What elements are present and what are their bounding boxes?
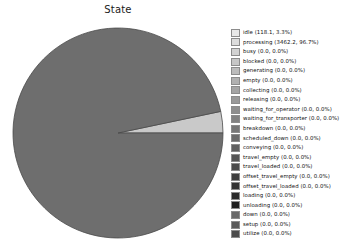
legend-item-label: generating (0.0, 0.0%)	[243, 66, 305, 76]
legend-swatch-icon	[231, 115, 240, 123]
legend-item: releasing (0.0, 0.0%)	[231, 95, 360, 105]
legend-item: collecting (0.0, 0.0%)	[231, 86, 360, 96]
legend-item: offset_travel_empty (0.0, 0.0%)	[231, 172, 360, 182]
legend-item: processing (3462.2, 96.7%)	[231, 38, 360, 48]
legend-swatch-icon	[231, 144, 240, 152]
legend-item: breakdown (0.0, 0.0%)	[231, 124, 360, 134]
legend-item: unloading (0.0, 0.0%)	[231, 201, 360, 211]
chart-legend: idle (118.1, 3.3%)processing (3462.2, 96…	[231, 28, 360, 239]
legend-swatch-icon	[231, 77, 240, 85]
legend-item: offset_travel_loaded (0.0, 0.0%)	[231, 182, 360, 192]
legend-item-label: down (0.0, 0.0%)	[243, 210, 290, 220]
legend-item-label: releasing (0.0, 0.0%)	[243, 95, 300, 105]
legend-item-label: waiting_for_operator (0.0, 0.0%)	[243, 105, 332, 115]
legend-item-label: travel_empty (0.0, 0.0%)	[243, 153, 311, 163]
legend-item: down (0.0, 0.0%)	[231, 210, 360, 220]
legend-item-label: breakdown (0.0, 0.0%)	[243, 124, 305, 134]
legend-item: utilize (0.0, 0.0%)	[231, 229, 360, 239]
legend-swatch-icon	[231, 192, 240, 200]
legend-item-label: unloading (0.0, 0.0%)	[243, 201, 302, 211]
legend-item-label: travel_loaded (0.0, 0.0%)	[243, 162, 312, 172]
legend-swatch-icon	[231, 106, 240, 114]
legend-item: waiting_for_transporter (0.0, 0.0%)	[231, 114, 360, 124]
legend-item: blocked (0.0, 0.0%)	[231, 57, 360, 67]
legend-item-label: processing (3462.2, 96.7%)	[243, 38, 319, 48]
legend-swatch-icon	[231, 96, 240, 104]
legend-item-label: offset_travel_empty (0.0, 0.0%)	[243, 172, 330, 182]
legend-swatch-icon	[231, 201, 240, 209]
legend-item: travel_empty (0.0, 0.0%)	[231, 153, 360, 163]
legend-swatch-icon	[231, 230, 240, 238]
legend-item-label: utilize (0.0, 0.0%)	[243, 229, 292, 239]
legend-item: travel_loaded (0.0, 0.0%)	[231, 162, 360, 172]
legend-item: waiting_for_operator (0.0, 0.0%)	[231, 105, 360, 115]
legend-swatch-icon	[231, 38, 240, 46]
legend-item-label: scheduled_down (0.0, 0.0%)	[243, 134, 321, 144]
legend-item-label: waiting_for_transporter (0.0, 0.0%)	[243, 114, 339, 124]
legend-swatch-icon	[231, 134, 240, 142]
pie-chart-figure: State idle (118.1, 3.3%)processing (3462…	[0, 0, 360, 245]
legend-item-label: setup (0.0, 0.0%)	[243, 220, 291, 230]
legend-swatch-icon	[231, 163, 240, 171]
legend-item: busy (0.0, 0.0%)	[231, 47, 360, 57]
pie-svg	[0, 16, 236, 245]
legend-swatch-icon	[231, 58, 240, 66]
legend-swatch-icon	[231, 67, 240, 75]
legend-swatch-icon	[231, 29, 240, 37]
legend-item: conveying (0.0, 0.0%)	[231, 143, 360, 153]
legend-swatch-icon	[231, 48, 240, 56]
legend-swatch-icon	[231, 182, 240, 190]
legend-swatch-icon	[231, 221, 240, 229]
legend-item: empty (0.0, 0.0%)	[231, 76, 360, 86]
legend-item: setup (0.0, 0.0%)	[231, 220, 360, 230]
legend-item-label: loading (0.0, 0.0%)	[243, 191, 295, 201]
legend-item: loading (0.0, 0.0%)	[231, 191, 360, 201]
legend-item-label: offset_travel_loaded (0.0, 0.0%)	[243, 182, 331, 192]
legend-swatch-icon	[231, 125, 240, 133]
pie-plot-area	[0, 16, 236, 245]
chart-title: State	[0, 4, 236, 15]
legend-item-label: idle (118.1, 3.3%)	[243, 28, 292, 38]
legend-item: generating (0.0, 0.0%)	[231, 66, 360, 76]
legend-swatch-icon	[231, 211, 240, 219]
legend-item: idle (118.1, 3.3%)	[231, 28, 360, 38]
legend-swatch-icon	[231, 86, 240, 94]
legend-item-label: blocked (0.0, 0.0%)	[243, 57, 296, 67]
legend-swatch-icon	[231, 154, 240, 162]
legend-item-label: conveying (0.0, 0.0%)	[243, 143, 303, 153]
legend-item-label: busy (0.0, 0.0%)	[243, 47, 288, 57]
pie-slices	[13, 28, 223, 238]
legend-item-label: collecting (0.0, 0.0%)	[243, 86, 302, 96]
legend-item: scheduled_down (0.0, 0.0%)	[231, 134, 360, 144]
pie-slice	[13, 28, 223, 238]
legend-item-label: empty (0.0, 0.0%)	[243, 76, 293, 86]
legend-swatch-icon	[231, 173, 240, 181]
